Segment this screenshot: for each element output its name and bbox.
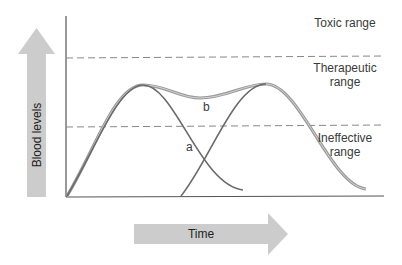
toxic-range-label: Toxic range <box>300 16 390 30</box>
x-axis <box>66 196 384 197</box>
therapeutic-range-label: Therapeutic range <box>300 61 390 89</box>
y-axis-label: Blood levels <box>30 103 44 168</box>
ineffective-range-label: Ineffective range <box>300 131 390 159</box>
x-axis-label: Time <box>188 227 215 241</box>
curve-b-label: b <box>203 100 210 114</box>
curve-a <box>67 85 243 196</box>
toxic-threshold-line <box>66 56 384 58</box>
ineffective-threshold-line <box>66 125 384 127</box>
curve-a-label: a <box>186 140 193 154</box>
curve-second-dose <box>181 84 266 196</box>
